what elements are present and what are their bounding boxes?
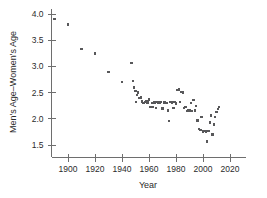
- data-point: [165, 102, 167, 104]
- data-point: [205, 130, 207, 132]
- data-point: [172, 107, 174, 109]
- data-point: [179, 101, 181, 103]
- x-tick-label: 1980: [167, 164, 186, 174]
- data-point: [200, 116, 202, 118]
- data-point: [195, 105, 197, 107]
- data-point: [107, 71, 109, 73]
- data-point: [160, 101, 162, 103]
- chart-canvas: 1.52.02.53.03.54.0 190019201940196019802…: [0, 0, 267, 198]
- data-point: [211, 133, 213, 135]
- data-point: [155, 107, 157, 109]
- data-point: [149, 106, 151, 108]
- y-tick-label: 1.5: [32, 140, 44, 150]
- data-point: [209, 121, 211, 123]
- data-point: [134, 90, 136, 92]
- data-point: [168, 120, 170, 122]
- data-point: [132, 80, 134, 82]
- data-point: [140, 96, 142, 98]
- y-tick-label: 3.5: [32, 35, 44, 45]
- y-tick-label: 2.0: [32, 114, 44, 124]
- data-point: [136, 94, 138, 96]
- data-point: [146, 101, 148, 103]
- x-tick-label: 2020: [221, 164, 240, 174]
- data-point: [171, 101, 173, 103]
- data-point: [67, 23, 69, 25]
- data-point: [167, 109, 169, 111]
- data-point: [207, 130, 209, 132]
- scatter-chart: 1.52.02.53.03.54.0 190019201940196019802…: [0, 0, 267, 198]
- data-point: [214, 116, 216, 118]
- x-tick-label: 1920: [86, 164, 105, 174]
- data-point: [190, 102, 192, 104]
- data-point: [199, 129, 201, 131]
- data-point: [94, 52, 96, 54]
- data-point: [135, 101, 137, 103]
- data-point: [153, 101, 155, 103]
- data-point: [192, 99, 194, 101]
- y-tick-label: 4.0: [32, 9, 44, 19]
- data-point: [130, 62, 132, 64]
- x-axis: 1900192019401960198020002020: [52, 154, 247, 174]
- data-points: [53, 18, 220, 142]
- y-axis-title: Men's Age–Women's Age: [8, 31, 18, 133]
- data-point: [213, 123, 215, 125]
- data-point: [188, 109, 190, 111]
- data-point: [210, 114, 212, 116]
- data-point: [133, 86, 135, 88]
- data-point: [191, 110, 193, 112]
- x-tick-label: 1940: [113, 164, 132, 174]
- data-point: [121, 81, 123, 83]
- y-axis: 1.52.02.53.03.54.0: [32, 9, 56, 157]
- data-point: [206, 140, 208, 142]
- data-point: [53, 18, 55, 20]
- data-point: [151, 102, 153, 104]
- data-point: [148, 98, 150, 100]
- y-tick-label: 2.5: [32, 88, 44, 98]
- x-tick-label: 2000: [194, 164, 213, 174]
- data-point: [215, 111, 217, 113]
- y-tick-label: 3.0: [32, 61, 44, 71]
- data-point: [218, 106, 220, 108]
- data-point: [80, 48, 82, 50]
- data-point: [137, 91, 139, 93]
- data-point: [194, 109, 196, 111]
- data-point: [178, 88, 180, 90]
- data-point: [152, 106, 154, 108]
- data-point: [182, 91, 184, 93]
- data-point: [196, 119, 198, 121]
- x-tick-label: 1960: [140, 164, 159, 174]
- data-point: [175, 102, 177, 104]
- x-tick-label: 1900: [59, 164, 78, 174]
- data-point: [184, 106, 186, 108]
- x-axis-title: Year: [139, 180, 157, 190]
- data-point: [161, 107, 163, 109]
